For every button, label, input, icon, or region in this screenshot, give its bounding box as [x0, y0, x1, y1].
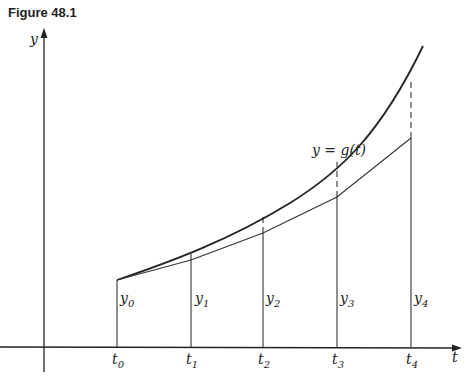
- svg-text:y0: y0: [119, 290, 135, 309]
- svg-text:y2: y2: [265, 290, 280, 309]
- svg-text:y4: y4: [413, 290, 428, 309]
- euler-polygon: [117, 138, 411, 280]
- svg-text:y3: y3: [339, 290, 354, 309]
- curve-g: [117, 46, 423, 280]
- svg-text:t3: t3: [332, 351, 344, 370]
- svg-text:t1: t1: [186, 351, 198, 370]
- y-axis-arrow-icon: [41, 28, 48, 38]
- svg-text:t0: t0: [112, 351, 125, 370]
- svg-text:y1: y1: [194, 290, 209, 309]
- error-segments: [191, 78, 411, 260]
- t-labels: t0 t1 t2 t3 t4: [112, 351, 418, 370]
- t-axis-label: t: [452, 349, 458, 365]
- euler-method-diagram: y t y = g(t) t0 t1 t2 t3 t4 y0 y1 y2 y3 …: [0, 0, 476, 384]
- t-axis: [0, 347, 454, 348]
- svg-text:t4: t4: [406, 351, 418, 370]
- curve-label: y = g(t): [311, 142, 366, 158]
- ordinates: [117, 138, 411, 347]
- svg-text:t2: t2: [258, 351, 270, 370]
- y-axis-label: y: [29, 31, 39, 47]
- y-labels: y0 y1 y2 y3 y4: [119, 290, 428, 309]
